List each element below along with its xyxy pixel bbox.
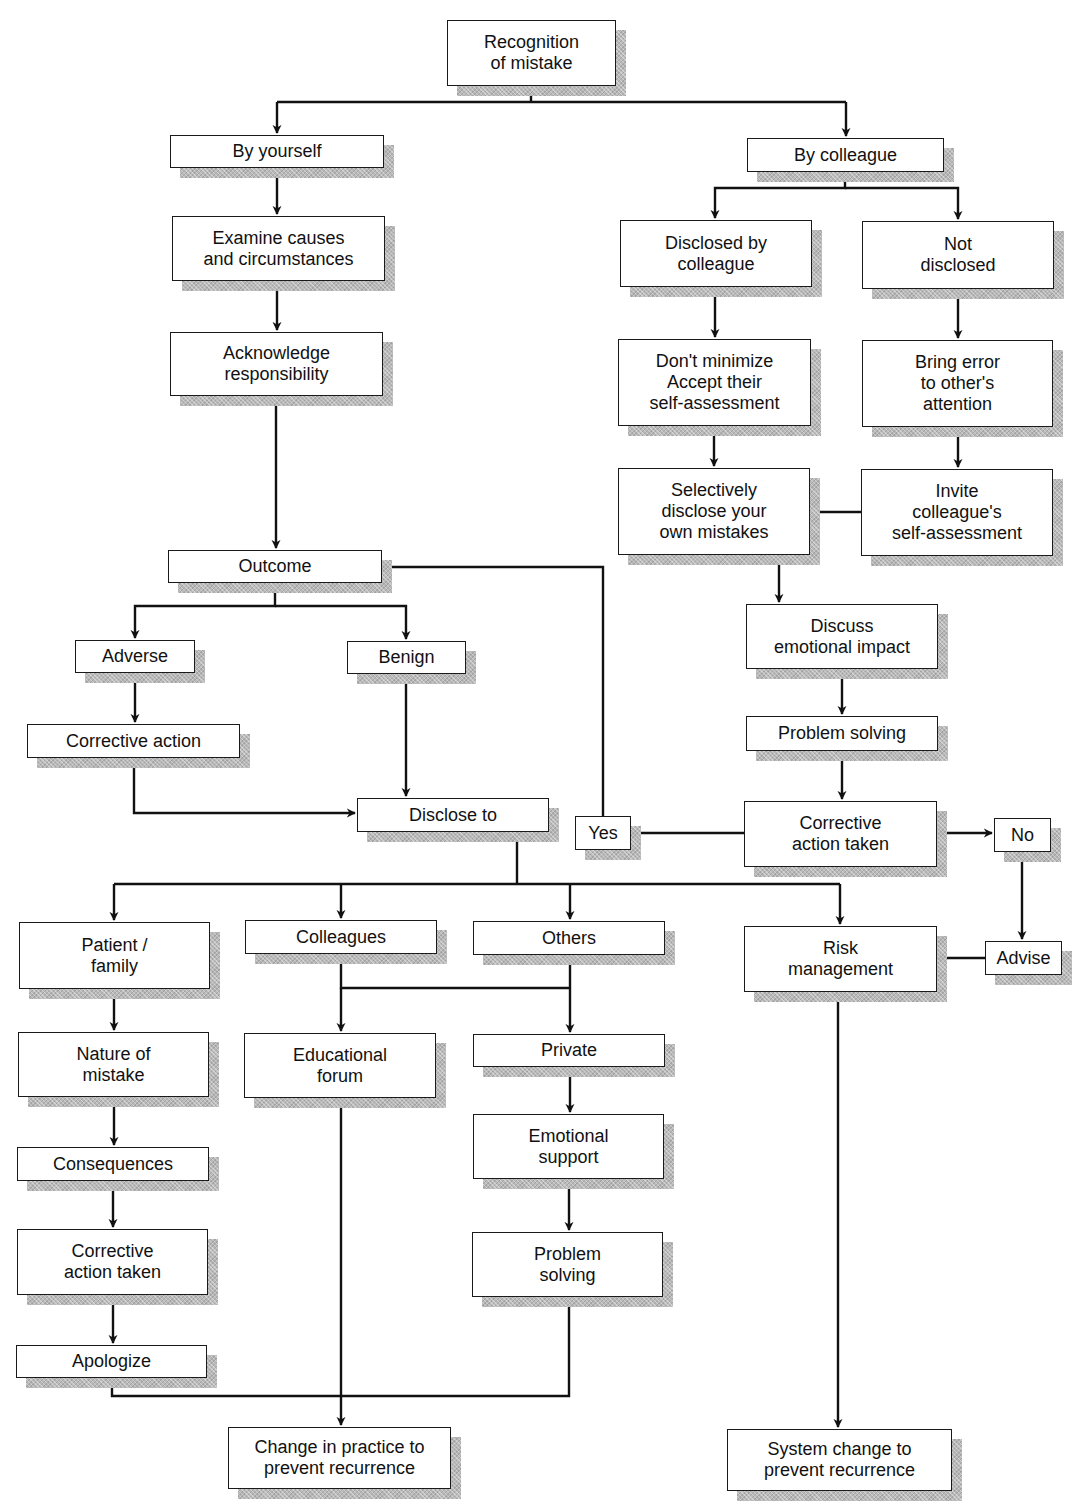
node-educational-forum: Educational forum	[244, 1033, 436, 1098]
node-corrective-action: Corrective action	[27, 724, 240, 758]
node-consequences: Consequences	[17, 1147, 209, 1181]
node-by-yourself: By yourself	[170, 135, 384, 168]
node-disclose-to: Disclose to	[357, 798, 549, 832]
flowchart-canvas: Recognition of mistake By yourself Exami…	[0, 0, 1088, 1511]
node-not-disclosed: Not disclosed	[862, 221, 1054, 289]
node-selectively-disclose: Selectively disclose your own mistakes	[618, 468, 810, 555]
node-risk-management: Risk management	[744, 926, 937, 992]
node-outcome: Outcome	[168, 550, 382, 583]
node-corrective-action-taken-right: Corrective action taken	[744, 801, 937, 867]
node-discuss-emotional-impact: Discuss emotional impact	[746, 604, 938, 669]
node-emotional-support: Emotional support	[473, 1114, 664, 1179]
node-by-colleague: By colleague	[747, 138, 944, 172]
node-acknowledge: Acknowledge responsibility	[170, 332, 383, 396]
node-change-in-practice: Change in practice to prevent recurrence	[228, 1427, 451, 1489]
node-benign: Benign	[347, 641, 466, 674]
node-patient-family: Patient / family	[19, 922, 210, 989]
node-recognition: Recognition of mistake	[447, 20, 616, 86]
node-dont-minimize: Don't minimize Accept their self-assessm…	[618, 339, 811, 426]
node-corrective-action-taken-left: Corrective action taken	[17, 1229, 208, 1295]
node-invite-self-assessment: Invite colleague's self-assessment	[861, 469, 1053, 556]
node-apologize: Apologize	[16, 1345, 207, 1378]
node-colleagues: Colleagues	[245, 920, 437, 954]
node-no: No	[994, 818, 1051, 852]
node-system-change: System change to prevent recurrence	[727, 1429, 952, 1491]
node-advise: Advise	[985, 941, 1062, 975]
node-problem-solving-mid: Problem solving	[472, 1232, 663, 1297]
node-disclosed-by-colleague: Disclosed by colleague	[620, 220, 812, 287]
node-private: Private	[473, 1034, 665, 1067]
node-nature-of-mistake: Nature of mistake	[18, 1032, 209, 1097]
node-others: Others	[473, 921, 665, 955]
node-bring-error: Bring error to other's attention	[862, 340, 1053, 427]
node-adverse: Adverse	[75, 640, 195, 673]
node-yes: Yes	[575, 816, 631, 850]
node-examine-causes: Examine causes and circumstances	[172, 216, 385, 281]
node-problem-solving-right: Problem solving	[746, 716, 938, 751]
